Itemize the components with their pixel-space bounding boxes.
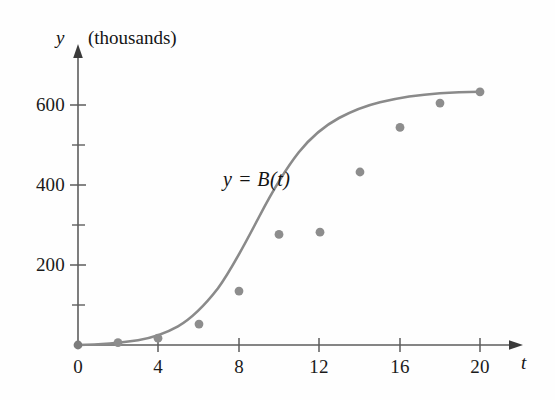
x-tick-label: 0	[66, 356, 90, 378]
x-tick-label: 12	[303, 356, 335, 378]
data-point-marker	[476, 87, 485, 96]
y-tick-label: 200	[20, 254, 65, 276]
curve-path	[78, 92, 480, 345]
x-tick-label: 8	[227, 356, 251, 378]
y-axis-arrowhead	[73, 44, 83, 58]
x-tick-label: 20	[464, 356, 496, 378]
data-point-marker	[275, 230, 284, 239]
figure-canvas: y (thousands) t y = B(t) 600 400 200 0 4…	[0, 0, 555, 400]
data-point-marker	[114, 338, 123, 347]
x-tick-label: 4	[146, 356, 170, 378]
y-tick-label: 400	[20, 174, 65, 196]
x-axis-name-label: t	[521, 352, 526, 374]
data-point-marker	[316, 228, 325, 237]
y-axis-name-label: y	[56, 27, 64, 49]
line-chart-plot	[0, 0, 555, 400]
data-point-marker	[436, 99, 445, 108]
data-point-marker	[154, 334, 163, 343]
data-point-marker	[356, 168, 365, 177]
y-axis-unit-note: (thousands)	[88, 27, 177, 49]
data-point-marker	[235, 287, 244, 296]
x-axis-arrowhead	[509, 340, 523, 350]
x-tick-label: 16	[384, 356, 416, 378]
data-point-marker	[74, 341, 83, 350]
y-tick-label: 600	[20, 94, 65, 116]
curve-equation-label: y = B(t)	[223, 168, 290, 191]
data-point-marker	[396, 123, 405, 132]
data-point-marker	[195, 320, 204, 329]
